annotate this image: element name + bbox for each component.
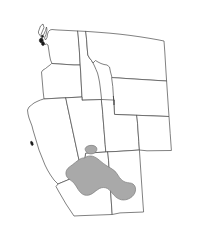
state-wy [112, 78, 169, 117]
state-or [42, 64, 83, 100]
range-map-figure [0, 0, 202, 248]
range-southern-utah-lobe [85, 145, 97, 154]
map-canvas [0, 0, 202, 248]
state-co [137, 115, 171, 151]
